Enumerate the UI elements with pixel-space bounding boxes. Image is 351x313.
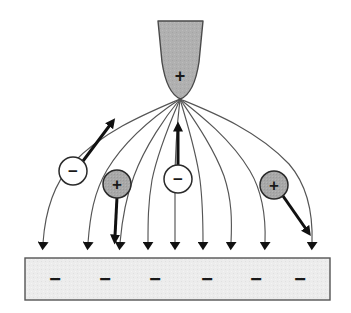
ion-charge-label-negative-left: − bbox=[68, 162, 78, 181]
ion-charge-label-negative-center: − bbox=[173, 170, 183, 189]
plate-charge-5: − bbox=[250, 268, 262, 290]
plate-charge-1: − bbox=[49, 268, 61, 290]
force-arrow-positive-ion-left bbox=[115, 197, 117, 236]
plate-charge-4: − bbox=[201, 268, 213, 290]
plate-charge-2: − bbox=[99, 268, 111, 290]
plate-charge-3: − bbox=[149, 268, 161, 290]
ion-charge-label-positive-right: + bbox=[269, 176, 279, 195]
tip-charge-label: + bbox=[175, 66, 186, 86]
plate-charge-6: − bbox=[294, 268, 306, 290]
ion-charge-label-positive-left: + bbox=[112, 175, 122, 194]
figure-container: + − + − + − bbox=[0, 0, 351, 313]
field-diagram-svg: + − + − + − bbox=[0, 0, 351, 313]
plate-electrode[interactable]: − − − − − − bbox=[25, 258, 330, 300]
plate-body bbox=[25, 258, 330, 300]
